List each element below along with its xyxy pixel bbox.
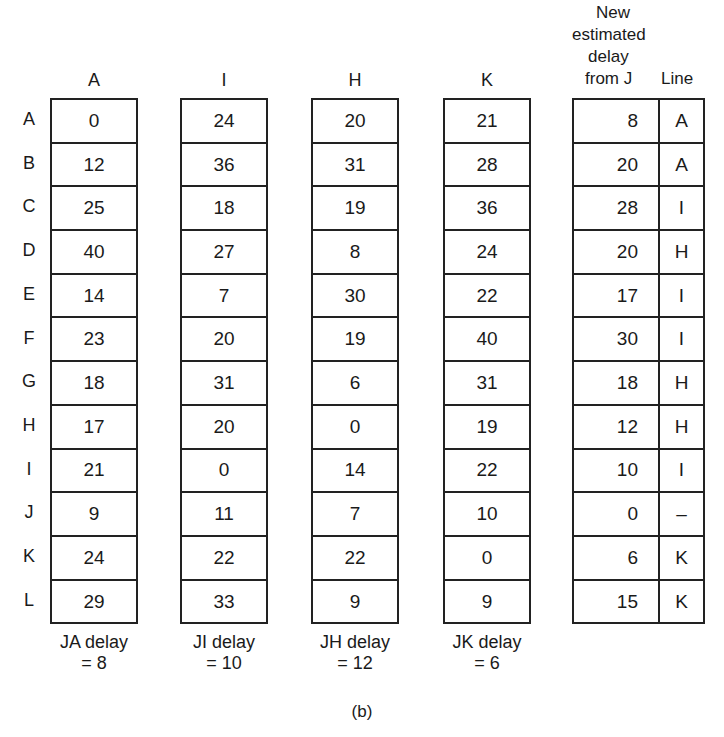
table-cell: 14 — [313, 450, 397, 494]
table-row: 20 A — [574, 144, 703, 188]
delay-note-label: JI delay — [193, 632, 255, 652]
table-row: 15 K — [574, 581, 703, 625]
table-cell: 9 — [52, 493, 136, 537]
table-cell: 24 — [445, 231, 529, 275]
table-cell: 22 — [445, 275, 529, 319]
table-cell: 40 — [52, 231, 136, 275]
table-cell: 19 — [313, 318, 397, 362]
delay-note-value: = 6 — [433, 653, 541, 674]
table-cell: 0 — [445, 537, 529, 581]
row-label-i: I — [14, 448, 44, 492]
neighbor-table-h: 20 31 19 8 30 19 6 0 14 7 22 9 — [311, 98, 399, 624]
delay-note-ja: JA delay = 8 — [40, 632, 148, 674]
estimated-delay: 15 — [574, 581, 660, 625]
table-cell: 25 — [52, 187, 136, 231]
table-cell: 9 — [313, 581, 397, 625]
table-cell: 7 — [313, 493, 397, 537]
new-routing-table: 8 A 20 A 28 I 20 H 17 I 30 I 18 H 12 H 1… — [572, 98, 705, 624]
table-cell: 19 — [445, 406, 529, 450]
outgoing-line: H — [660, 406, 703, 448]
table-cell: 21 — [445, 100, 529, 144]
outgoing-line: – — [660, 493, 703, 535]
estimated-delay: 0 — [574, 493, 660, 535]
new-header-line: New — [596, 2, 630, 23]
table-cell: 21 — [52, 450, 136, 494]
outgoing-line: I — [660, 318, 703, 360]
line-header: Line — [661, 68, 693, 89]
neighbor-table-i: 24 36 18 27 7 20 31 20 0 11 22 33 — [180, 98, 268, 624]
outgoing-line: A — [660, 100, 703, 142]
outgoing-line: H — [660, 231, 703, 273]
row-label-f: F — [14, 317, 44, 361]
table-cell: 8 — [313, 231, 397, 275]
table-cell: 0 — [182, 450, 266, 494]
new-header-line: from J — [585, 68, 632, 89]
estimated-delay: 20 — [574, 144, 660, 186]
estimated-delay: 17 — [574, 275, 660, 317]
neighbor-table-k: 21 28 36 24 22 40 31 19 22 10 0 9 — [443, 98, 531, 624]
table-row: 0 – — [574, 493, 703, 537]
table-cell: 9 — [445, 581, 529, 625]
row-label-g: G — [14, 360, 44, 404]
estimated-delay: 6 — [574, 537, 660, 579]
outgoing-line: I — [660, 450, 703, 492]
column-header-h: H — [311, 70, 399, 90]
table-cell: 0 — [52, 100, 136, 144]
table-row: 12 H — [574, 406, 703, 450]
table-row: 20 H — [574, 231, 703, 275]
row-label-e: E — [14, 273, 44, 317]
table-cell: 20 — [313, 100, 397, 144]
table-cell: 31 — [313, 144, 397, 188]
table-row: 6 K — [574, 537, 703, 581]
delay-note-value: = 10 — [170, 653, 278, 674]
delay-note-jh: JH delay = 12 — [301, 632, 409, 674]
table-cell: 22 — [313, 537, 397, 581]
table-cell: 20 — [182, 406, 266, 450]
new-header-line: estimated — [572, 24, 646, 45]
outgoing-line: K — [660, 537, 703, 579]
table-cell: 28 — [445, 144, 529, 188]
delay-note-label: JH delay — [320, 632, 390, 652]
table-cell: 11 — [182, 493, 266, 537]
table-cell: 22 — [182, 537, 266, 581]
table-cell: 40 — [445, 318, 529, 362]
table-row: 8 A — [574, 100, 703, 144]
estimated-delay: 20 — [574, 231, 660, 273]
table-cell: 36 — [182, 144, 266, 188]
table-cell: 6 — [313, 362, 397, 406]
table-cell: 7 — [182, 275, 266, 319]
delay-note-jk: JK delay = 6 — [433, 632, 541, 674]
outgoing-line: A — [660, 144, 703, 186]
table-row: 30 I — [574, 318, 703, 362]
estimated-delay: 10 — [574, 450, 660, 492]
table-cell: 27 — [182, 231, 266, 275]
table-cell: 36 — [445, 187, 529, 231]
table-cell: 17 — [52, 406, 136, 450]
row-label-k: K — [14, 535, 44, 579]
estimated-delay: 18 — [574, 362, 660, 404]
table-cell: 23 — [52, 318, 136, 362]
table-row: 28 I — [574, 187, 703, 231]
table-row: 18 H — [574, 362, 703, 406]
new-header-line: delay — [588, 46, 629, 67]
estimated-delay: 12 — [574, 406, 660, 448]
table-cell: 29 — [52, 581, 136, 625]
table-cell: 14 — [52, 275, 136, 319]
table-cell: 24 — [182, 100, 266, 144]
table-cell: 30 — [313, 275, 397, 319]
table-cell: 19 — [313, 187, 397, 231]
delay-note-value: = 8 — [40, 653, 148, 674]
outgoing-line: I — [660, 187, 703, 229]
column-header-k: K — [443, 70, 531, 90]
delay-note-value: = 12 — [301, 653, 409, 674]
table-cell: 33 — [182, 581, 266, 625]
row-label-a: A — [14, 98, 44, 142]
table-cell: 0 — [313, 406, 397, 450]
column-header-i: I — [180, 70, 268, 90]
delay-note-ji: JI delay = 10 — [170, 632, 278, 674]
table-cell: 31 — [445, 362, 529, 406]
table-cell: 31 — [182, 362, 266, 406]
table-row: 17 I — [574, 275, 703, 319]
table-cell: 12 — [52, 144, 136, 188]
row-label-d: D — [14, 229, 44, 273]
